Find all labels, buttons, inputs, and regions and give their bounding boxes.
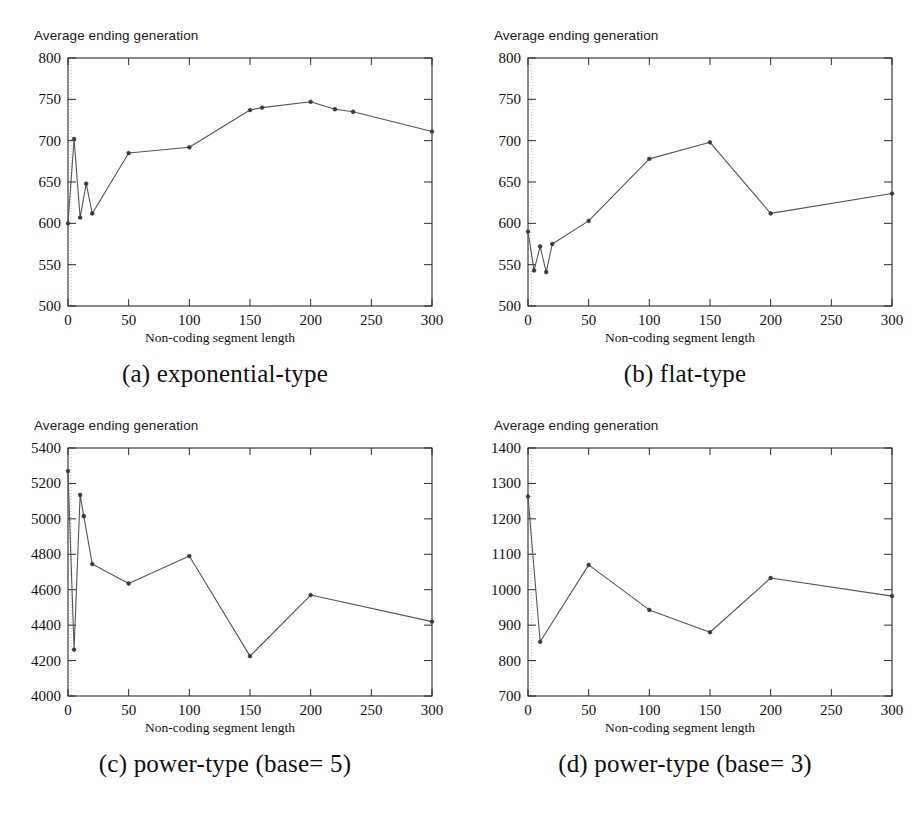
y-tick-label: 750 xyxy=(39,91,62,107)
y-tick-label: 4600 xyxy=(31,582,61,598)
y-tick-label: 5400 xyxy=(31,440,61,456)
y-tick-label: 550 xyxy=(39,257,62,273)
data-point-marker xyxy=(769,576,773,580)
x-tick-label: 200 xyxy=(759,312,782,328)
data-series-line xyxy=(68,471,432,656)
data-point-marker xyxy=(532,269,536,273)
data-series-line xyxy=(528,497,892,642)
x-tick-label: 300 xyxy=(881,702,904,718)
data-point-marker xyxy=(526,230,530,234)
x-tick-label: 50 xyxy=(121,312,136,328)
x-tick-label: 50 xyxy=(581,702,596,718)
panel-b-caption: (b) flat-type xyxy=(460,360,910,388)
x-tick-label: 200 xyxy=(299,702,322,718)
x-tick-label: 300 xyxy=(421,312,444,328)
data-point-marker xyxy=(333,107,337,111)
y-tick-label: 600 xyxy=(39,215,62,231)
data-point-marker xyxy=(538,245,542,249)
y-tick-label: 5000 xyxy=(31,511,61,527)
x-tick-label: 100 xyxy=(178,702,201,718)
y-tick-label: 550 xyxy=(499,257,522,273)
panel-d-x-axis-title: Non-coding segment length xyxy=(460,720,900,736)
panel-a-x-axis-title: Non-coding segment length xyxy=(0,330,440,346)
y-tick-label: 700 xyxy=(499,133,522,149)
data-point-marker xyxy=(82,514,86,518)
panel-b-plot-area: 500550600650700750800050100150200250300 xyxy=(460,44,920,344)
y-tick-label: 500 xyxy=(39,298,62,314)
plot-frame xyxy=(68,58,432,306)
panel-c-power-type-base-5: Average ending generation 40004200440046… xyxy=(0,390,460,805)
y-tick-label: 1400 xyxy=(491,440,521,456)
data-point-marker xyxy=(66,469,70,473)
y-tick-label: 800 xyxy=(499,50,522,66)
panel-b-y-axis-title: Average ending generation xyxy=(494,28,658,43)
panel-c-chart-svg: 4000420044004600480050005200540005010015… xyxy=(0,434,460,734)
data-point-marker xyxy=(248,654,252,658)
y-tick-label: 750 xyxy=(499,91,522,107)
y-tick-label: 1200 xyxy=(491,511,521,527)
data-point-marker xyxy=(647,608,651,612)
data-point-marker xyxy=(587,563,591,567)
y-tick-label: 1300 xyxy=(491,475,521,491)
y-tick-label: 5200 xyxy=(31,475,61,491)
y-tick-label: 1000 xyxy=(491,582,521,598)
panel-d-y-axis-title: Average ending generation xyxy=(494,418,658,433)
data-series-line xyxy=(528,142,892,272)
data-point-marker xyxy=(309,593,313,597)
y-tick-label: 500 xyxy=(499,298,522,314)
panel-c-y-axis-title: Average ending generation xyxy=(34,418,198,433)
data-point-marker xyxy=(550,242,554,246)
data-point-marker xyxy=(187,554,191,558)
x-tick-label: 100 xyxy=(178,312,201,328)
y-tick-label: 4800 xyxy=(31,546,61,562)
data-point-marker xyxy=(587,219,591,223)
y-tick-label: 900 xyxy=(499,617,522,633)
data-point-marker xyxy=(526,495,530,499)
data-point-marker xyxy=(78,493,82,497)
data-point-marker xyxy=(769,212,773,216)
x-tick-label: 0 xyxy=(64,312,72,328)
data-point-marker xyxy=(890,594,894,598)
y-tick-label: 600 xyxy=(499,215,522,231)
panel-a-caption: (a) exponential-type xyxy=(0,360,450,388)
x-tick-label: 100 xyxy=(638,702,661,718)
y-tick-label: 1100 xyxy=(492,546,521,562)
x-tick-label: 200 xyxy=(759,702,782,718)
panel-d-chart-svg: 7008009001000110012001300140005010015020… xyxy=(460,434,920,734)
data-point-marker xyxy=(90,212,94,216)
x-tick-label: 0 xyxy=(64,702,72,718)
panel-b-x-axis-title: Non-coding segment length xyxy=(460,330,900,346)
panel-a-y-axis-title: Average ending generation xyxy=(34,28,198,43)
data-point-marker xyxy=(84,182,88,186)
data-point-marker xyxy=(430,130,434,134)
panel-d-plot-area: 7008009001000110012001300140005010015020… xyxy=(460,434,920,734)
x-tick-label: 300 xyxy=(881,312,904,328)
data-point-marker xyxy=(260,106,264,110)
y-tick-label: 800 xyxy=(39,50,62,66)
panel-c-plot-area: 4000420044004600480050005200540005010015… xyxy=(0,434,460,734)
x-tick-label: 150 xyxy=(239,312,262,328)
data-point-marker xyxy=(66,221,70,225)
data-point-marker xyxy=(78,216,82,220)
panel-b-chart-svg: 500550600650700750800050100150200250300 xyxy=(460,44,920,344)
data-point-marker xyxy=(430,620,434,624)
x-tick-label: 50 xyxy=(581,312,596,328)
x-tick-label: 250 xyxy=(360,702,383,718)
data-point-marker xyxy=(187,145,191,149)
panel-a-exponential-type: Average ending generation 50055060065070… xyxy=(0,0,460,415)
panel-c-caption: (c) power-type (base= 5) xyxy=(0,750,450,778)
x-tick-label: 250 xyxy=(820,312,843,328)
y-tick-label: 4400 xyxy=(31,617,61,633)
data-point-marker xyxy=(647,157,651,161)
y-tick-label: 700 xyxy=(39,133,62,149)
figure-four-panel-line-charts: Average ending generation 50055060065070… xyxy=(0,0,921,831)
data-point-marker xyxy=(538,640,542,644)
data-point-marker xyxy=(708,630,712,634)
x-tick-label: 0 xyxy=(524,702,532,718)
y-tick-label: 700 xyxy=(499,688,522,704)
data-point-marker xyxy=(708,140,712,144)
data-point-marker xyxy=(72,648,76,652)
data-series-line xyxy=(68,102,432,224)
x-tick-label: 0 xyxy=(524,312,532,328)
x-tick-label: 250 xyxy=(360,312,383,328)
